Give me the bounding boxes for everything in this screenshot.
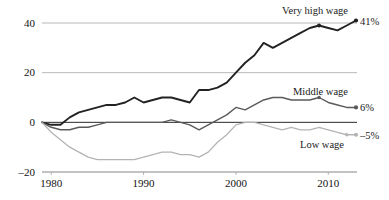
series-label-very-high-wage: Very high wage: [282, 5, 348, 16]
endpoint-marker-low-wage: [354, 133, 358, 137]
series-label-middle-wage: Middle wage: [293, 86, 348, 97]
x-tick-label: 1980: [40, 177, 63, 189]
chart-canvas: 40200–20 1980199020002010 Very high wage…: [0, 0, 389, 200]
end-value-label-middle-wage: 6%: [360, 102, 374, 113]
end-value-label-very-high-wage: 41%: [360, 16, 380, 27]
series-endpoint-markers: [317, 18, 358, 136]
series-label-low-wage: Low wage: [300, 139, 344, 150]
endpoint-marker-middle-wage: [354, 105, 358, 109]
series-end-value-labels: 41%6%–5%: [359, 16, 380, 141]
x-axis: [42, 172, 357, 175]
y-tick-label: 0: [30, 116, 36, 128]
endpoint-marker-very-high-wage: [354, 18, 358, 22]
y-tick-label: 40: [24, 17, 36, 29]
interior-marker-low-wage: [345, 133, 348, 136]
interior-marker-very-high-wage: [317, 23, 321, 27]
series-line-middle-wage: [42, 98, 356, 130]
x-axis-tick-labels: 1980199020002010: [40, 177, 340, 189]
x-tick-label: 2000: [225, 177, 248, 189]
end-value-label-low-wage: –5%: [359, 130, 380, 141]
x-tick-label: 1990: [133, 177, 156, 189]
y-axis-tick-labels: 40200–20: [18, 17, 36, 178]
y-tick-label: –20: [18, 166, 36, 178]
y-tick-label: 20: [24, 66, 36, 78]
wage-growth-line-chart: 40200–20 1980199020002010 Very high wage…: [0, 0, 389, 200]
x-tick-label: 2010: [317, 177, 340, 189]
